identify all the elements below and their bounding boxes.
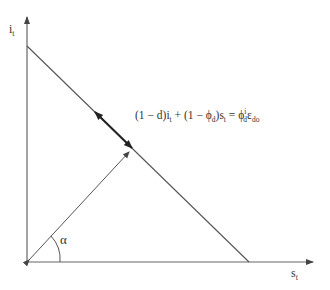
angle-label: α	[60, 232, 67, 248]
constraint-line	[27, 46, 249, 262]
eq-part4: = ϕ	[226, 109, 244, 121]
eq-part1: (1 − d)i	[135, 109, 170, 121]
eq-part5-sub: do	[252, 115, 260, 124]
x-axis-label: st	[291, 266, 298, 282]
y-axis-label: it	[9, 22, 15, 38]
angle-arc	[51, 236, 60, 262]
eq-part2: + (1 − ϕ	[172, 109, 212, 121]
y-axis-label-sub: t	[12, 29, 14, 38]
shift-double-arrow	[95, 112, 132, 148]
x-axis-label-sub: t	[296, 273, 298, 282]
diagram-canvas	[0, 0, 330, 290]
normal-vector-arrow	[29, 152, 129, 260]
constraint-equation: (1 − d)it + (1 − ϕd)st = ϕidεdo	[135, 107, 259, 124]
eq-part3: )s	[216, 109, 224, 121]
